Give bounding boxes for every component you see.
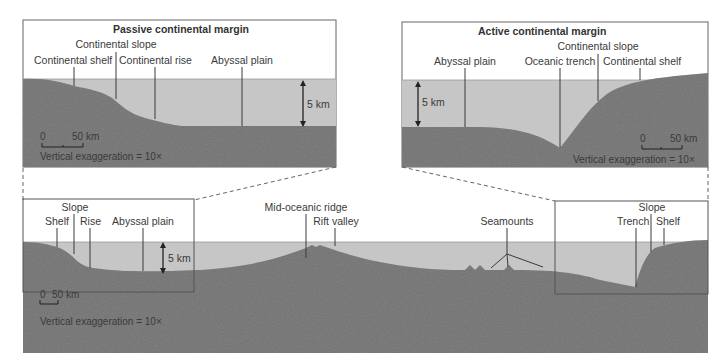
- main-trench-label: Trench: [617, 215, 649, 227]
- passive-rise-label: Continental rise: [119, 54, 192, 66]
- active-shelf-label: Continental shelf: [603, 55, 681, 67]
- passive-exaggeration: Vertical exaggeration = 10×: [40, 151, 162, 162]
- main-depth-label: 5 km: [168, 252, 191, 264]
- passive-slope-label: Continental slope: [75, 38, 156, 50]
- passive-depth-label: 5 km: [307, 98, 330, 110]
- main-exaggeration: Vertical exaggeration = 10×: [40, 316, 162, 327]
- passive-margin-inset: Passive continental margin Continental s…: [23, 20, 336, 167]
- active-abyssal-label: Abyssal plain: [434, 55, 496, 67]
- svg-text:0: 0: [40, 289, 46, 300]
- svg-text:0: 0: [640, 133, 646, 144]
- active-exaggeration: Vertical exaggeration = 10×: [573, 154, 695, 165]
- inset-connectors: [23, 167, 708, 201]
- active-trench-label: Oceanic trench: [525, 55, 596, 67]
- main-slope-label: Slope: [62, 201, 89, 213]
- main-right-slope-label: Slope: [639, 201, 666, 213]
- main-profile: Slope Shelf Rise Abyssal plain 5 km Mid-…: [0, 199, 728, 353]
- active-depth-label: 5 km: [422, 96, 445, 108]
- svg-text:0: 0: [40, 131, 46, 142]
- svg-text:50 km: 50 km: [52, 289, 79, 300]
- active-title: Active continental margin: [478, 25, 606, 37]
- passive-title: Passive continental margin: [113, 23, 249, 35]
- passive-abyssal-label: Abyssal plain: [211, 54, 273, 66]
- svg-text:50 km: 50 km: [670, 133, 697, 144]
- main-rise-label: Rise: [80, 215, 101, 227]
- active-margin-inset: Active continental margin Continental sl…: [402, 22, 708, 167]
- main-ridge-label: Mid-oceanic ridge: [265, 201, 348, 213]
- svg-text:50 km: 50 km: [72, 131, 99, 142]
- main-rift-label: Rift valley: [313, 215, 359, 227]
- active-slope-label: Continental slope: [557, 40, 638, 52]
- main-shelf-label: Shelf: [45, 215, 69, 227]
- main-right-shelf-label: Shelf: [656, 215, 680, 227]
- passive-shelf-label: Continental shelf: [34, 54, 112, 66]
- ocean-floor-diagram: Passive continental margin Continental s…: [0, 0, 728, 353]
- main-abyssal-label: Abyssal plain: [112, 215, 174, 227]
- main-seamounts-label: Seamounts: [480, 215, 533, 227]
